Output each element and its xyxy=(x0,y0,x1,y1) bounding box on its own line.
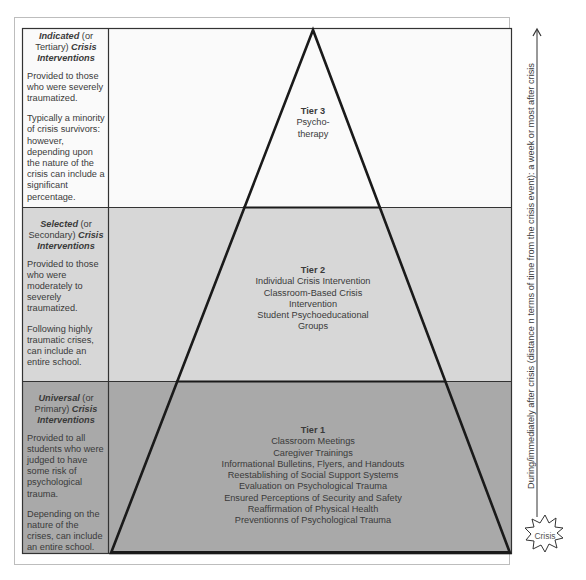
crisis-label: Crisis xyxy=(527,531,563,541)
tier-2-title: Tier 2 xyxy=(218,265,408,276)
tier-2-heading: Selected (or Secondary) Crisis Intervent… xyxy=(27,219,105,253)
tier-1-heading: Universal (or Primary) Crisis Interventi… xyxy=(27,393,105,427)
tier-3-item: therapy xyxy=(263,129,363,140)
tier-1-title: Tier 1 xyxy=(180,425,446,436)
tier-2-item: Intervention xyxy=(218,299,408,310)
tier-2-item: Groups xyxy=(218,321,408,332)
tier-1-item: Reestablishing of Social Support Systems xyxy=(180,470,446,481)
tier-1-item: Caregiver Trainings xyxy=(180,448,446,459)
tier-2-content: Tier 2 Individual Crisis Intervention Cl… xyxy=(218,265,408,333)
tier-3-heading: Indicated (or Tertiary) Crisis Intervent… xyxy=(27,31,105,65)
tier-1-para-2: Depending on the nature of the crises, c… xyxy=(27,509,105,554)
tier-1-para-1: Provided to all students who were judged… xyxy=(27,433,105,500)
tier-3-content: Tier 3 Psycho- therapy xyxy=(263,106,363,140)
tier-3-description: Indicated (or Tertiary) Crisis Intervent… xyxy=(22,28,109,208)
tier-3-title: Tier 3 xyxy=(263,106,363,117)
tier-2-description: Selected (or Secondary) Crisis Intervent… xyxy=(22,207,109,382)
tier-3-item: Psycho- xyxy=(263,117,363,128)
tier-1-item: Informational Bulletins, Flyers, and Han… xyxy=(180,459,446,470)
tier-1-item: Preventionns of Psychological Trauma xyxy=(180,515,446,526)
tier-1-description: Universal (or Primary) Crisis Interventi… xyxy=(22,381,109,554)
tier-2-item: Student Psychoeducational xyxy=(218,310,408,321)
time-axis-label: During/immediately after crisis (distanc… xyxy=(526,36,538,516)
tier-2-item: Classroom-Based Crisis xyxy=(218,288,408,299)
tier-1-item: Classroom Meetings xyxy=(180,436,446,447)
tier-2-para-1: Provided to those who were moderately to… xyxy=(27,259,105,315)
tier-1-content: Tier 1 Classroom Meetings Caregiver Trai… xyxy=(180,425,446,527)
tier-2-item: Individual Crisis Intervention xyxy=(218,276,408,287)
tier-3-para-1: Provided to those who were severely trau… xyxy=(27,71,105,105)
tier-1-item: Evaluation on Psychological Trauma xyxy=(180,481,446,492)
tier-2-para-2: Following highly traumatic crises, can i… xyxy=(27,324,105,369)
tier-3-para-2: Typically a minority of crisis survivors… xyxy=(27,113,105,203)
tier-1-item: Reaffirmation of Physical Health xyxy=(180,504,446,515)
tier-1-item: Ensured Perceptions of Security and Safe… xyxy=(180,493,446,504)
